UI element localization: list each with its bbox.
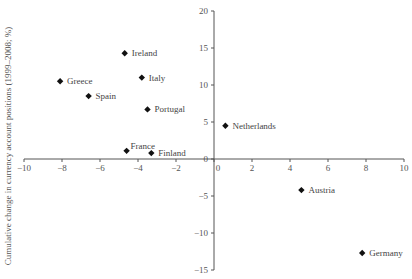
y-tick-label: −5 [198,191,208,201]
data-point: Germany [359,248,403,258]
scatter-chart: Cumulative change in currency account po… [0,0,412,279]
x-axis-ticks: −10−8−6−4−20246810 [17,159,409,173]
x-tick-label: 10 [400,163,410,173]
diamond-marker-icon [85,93,91,99]
y-axis-title: Cumulative change in currency account po… [3,27,13,266]
diamond-marker-icon [359,250,365,256]
point-label: Finland [158,148,186,158]
x-tick-label: 4 [288,163,293,173]
data-point: Netherlands [222,121,276,131]
data-point: Austria [298,185,335,195]
point-label: Greece [67,76,92,86]
point-label: Ireland [132,48,158,58]
data-point: Ireland [122,48,158,58]
diamond-marker-icon [123,148,129,154]
point-label: Germany [369,248,403,258]
x-tick-label: 2 [250,163,255,173]
y-tick-label: 0 [204,154,209,164]
point-label: Portugal [155,104,186,114]
x-tick-label: −2 [171,163,181,173]
data-point: Spain [85,91,116,101]
data-points: IrelandGreeceItalySpainPortugalFranceFin… [57,48,403,258]
y-axis-title-group: Cumulative change in currency account po… [3,27,13,266]
data-point: Portugal [144,104,185,114]
diamond-marker-icon [222,123,228,129]
y-tick-label: 20 [199,6,209,16]
diamond-marker-icon [144,106,150,112]
point-label: Spain [96,91,117,101]
diamond-marker-icon [122,50,128,56]
y-tick-label: −10 [194,228,209,238]
x-tick-label: −8 [57,163,67,173]
y-axis-ticks: 20151050−5−10−15 [194,6,214,275]
data-point: Greece [57,76,93,86]
x-tick-label: 8 [364,163,369,173]
diamond-marker-icon [298,187,304,193]
y-tick-label: −15 [194,265,209,275]
y-tick-label: 15 [199,43,209,53]
x-tick-label: −6 [95,163,105,173]
point-label: Netherlands [232,121,276,131]
x-tick-label: 6 [326,163,331,173]
y-tick-label: 5 [204,117,209,127]
point-label: France [131,141,156,151]
point-label: Austria [308,185,335,195]
diamond-marker-icon [57,78,63,84]
x-tick-label: −4 [133,163,143,173]
axes [24,11,404,270]
point-label: Italy [149,73,166,83]
x-tick-label: 0 [216,163,221,173]
data-point: Italy [139,73,166,83]
x-tick-label: −10 [17,163,32,173]
diamond-marker-icon [139,74,145,80]
y-tick-label: 10 [199,80,209,90]
